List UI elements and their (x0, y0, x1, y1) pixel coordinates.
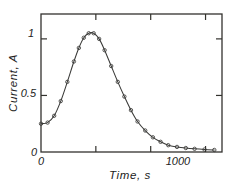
x-tick-label-0: 0 (38, 155, 45, 167)
data-point-markers (39, 32, 216, 152)
x-axis-title: Time, s (109, 169, 151, 181)
y-tick-label-0: 0 (31, 146, 38, 158)
data-series-current (41, 33, 214, 150)
y-axis-title: Current, A (7, 54, 19, 112)
x-tick-label-1000: 1000 (166, 155, 191, 167)
chart-plot-area: 1 0.5 0 0 1000 Time, s Current, A (0, 0, 236, 181)
y-tick-label-05: 0.5 (21, 87, 37, 99)
y-tick-label-1: 1 (28, 27, 34, 39)
chart-figure: 1 0.5 0 0 1000 Time, s Current, A (0, 0, 236, 181)
